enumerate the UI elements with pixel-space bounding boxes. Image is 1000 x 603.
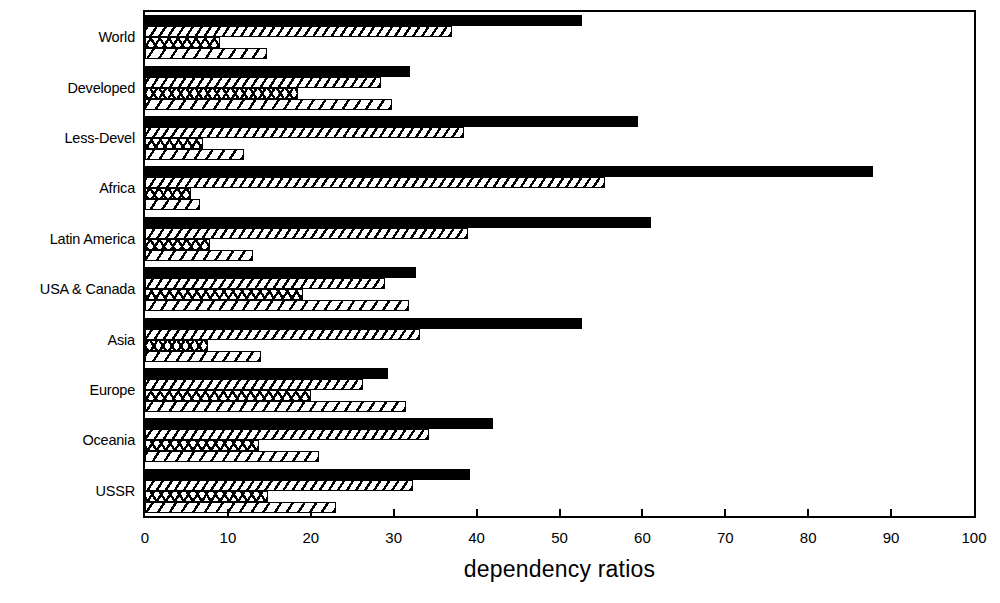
- category-label: Oceania: [0, 433, 135, 448]
- category-label: Latin America: [0, 232, 135, 247]
- x-tick-label: 50: [551, 530, 568, 545]
- bar: [145, 278, 385, 289]
- x-tick-label: 60: [634, 530, 651, 545]
- bar: [145, 491, 268, 502]
- bar: [145, 217, 651, 228]
- bar-group: [145, 15, 974, 59]
- x-tick-label: 0: [141, 530, 149, 545]
- bar: [145, 368, 388, 379]
- x-tick-label: 20: [302, 530, 319, 545]
- bar: [145, 250, 253, 261]
- x-tick: [890, 509, 892, 518]
- category-label: Asia: [0, 333, 135, 348]
- category-label: USSR: [0, 484, 135, 499]
- bar: [145, 300, 409, 311]
- x-tick-label: 100: [961, 530, 986, 545]
- category-axis: WorldDevelopedLess-DevelAfricaLatin Amer…: [0, 12, 135, 516]
- x-tick: [393, 509, 395, 518]
- bar: [145, 390, 311, 401]
- bar: [145, 127, 464, 138]
- bar-group: [145, 267, 974, 311]
- bar: [145, 329, 420, 340]
- x-tick: [559, 509, 561, 518]
- bar: [145, 502, 336, 513]
- x-tick-label: 30: [385, 530, 402, 545]
- x-tick-label: 90: [883, 530, 900, 545]
- category-label: USA & Canada: [0, 282, 135, 297]
- bar: [145, 199, 200, 210]
- x-tick-label: 70: [717, 530, 734, 545]
- bar: [145, 77, 381, 88]
- x-tick-label: 10: [220, 530, 237, 545]
- bar: [145, 99, 392, 110]
- bar: [145, 177, 605, 188]
- bar: [145, 228, 468, 239]
- bar: [145, 26, 452, 37]
- category-label: Less-Devel: [0, 131, 135, 146]
- x-axis: 0102030405060708090100: [143, 518, 976, 558]
- category-label: World: [0, 30, 135, 45]
- bar: [145, 66, 410, 77]
- bar: [145, 429, 429, 440]
- bar: [145, 451, 319, 462]
- x-tick-label: 80: [800, 530, 817, 545]
- x-tick: [476, 509, 478, 518]
- bar: [145, 379, 363, 390]
- bar-group: [145, 66, 974, 110]
- chart-root: WorldDevelopedLess-DevelAfricaLatin Amer…: [0, 0, 1000, 603]
- bars-container: [145, 12, 974, 516]
- bar: [145, 149, 244, 160]
- bar: [145, 239, 210, 250]
- bar: [145, 48, 267, 59]
- bar: [145, 480, 413, 491]
- category-label: Africa: [0, 181, 135, 196]
- bar: [145, 340, 208, 351]
- bar: [145, 188, 191, 199]
- category-label: Developed: [0, 81, 135, 96]
- bar: [145, 351, 261, 362]
- bar: [145, 440, 259, 451]
- x-tick: [641, 509, 643, 518]
- bar: [145, 116, 638, 127]
- x-tick: [807, 509, 809, 518]
- bar: [145, 401, 406, 412]
- x-tick: [310, 509, 312, 518]
- bar-group: [145, 418, 974, 462]
- bar-group: [145, 116, 974, 160]
- bar: [145, 469, 470, 480]
- bar: [145, 138, 203, 149]
- bar: [145, 318, 582, 329]
- x-axis-title: dependency ratios: [143, 558, 976, 581]
- category-label: Europe: [0, 383, 135, 398]
- bar-group: [145, 318, 974, 362]
- bar: [145, 267, 416, 278]
- bar: [145, 289, 303, 300]
- bar: [145, 418, 493, 429]
- bar: [145, 88, 298, 99]
- bar-group: [145, 217, 974, 261]
- bar: [145, 15, 582, 26]
- bar-group: [145, 166, 974, 210]
- x-tick-label: 40: [468, 530, 485, 545]
- x-tick: [724, 509, 726, 518]
- bar-group: [145, 368, 974, 412]
- bar: [145, 37, 220, 48]
- bar-group: [145, 469, 974, 513]
- x-tick: [227, 509, 229, 518]
- bar: [145, 166, 873, 177]
- plot-area: [143, 10, 976, 518]
